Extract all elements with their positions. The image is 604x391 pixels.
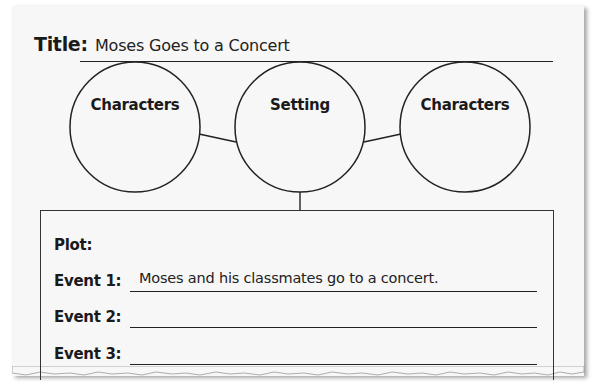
characters-circle-right[interactable] xyxy=(400,62,530,192)
event-2-label: Event 2: xyxy=(54,308,121,326)
connector-setting-characters xyxy=(364,134,401,142)
event-2-line xyxy=(130,327,537,328)
event-1-label: Event 1: xyxy=(54,272,121,290)
event-3-line xyxy=(130,364,537,365)
characters-circle-left[interactable] xyxy=(70,62,200,192)
event-1-line xyxy=(130,291,537,292)
characters-label-right: Characters xyxy=(400,96,530,114)
setting-circle[interactable] xyxy=(235,62,365,192)
connector-characters-setting xyxy=(199,134,236,142)
event-3-label: Event 3: xyxy=(54,345,121,363)
plot-label: Plot: xyxy=(54,236,92,254)
event-1-value[interactable]: Moses and his classmates go to a concert… xyxy=(139,270,438,286)
setting-label: Setting xyxy=(235,96,365,114)
characters-label-left: Characters xyxy=(70,96,200,114)
